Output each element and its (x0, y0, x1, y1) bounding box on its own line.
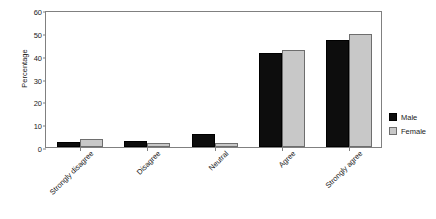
bar-male-0 (57, 142, 80, 147)
bar-group-2 (192, 12, 238, 147)
legend-item-male: Male (389, 110, 426, 124)
legend-swatch-male (389, 113, 397, 121)
legend-swatch-female (389, 127, 397, 135)
bar-male-3 (259, 53, 282, 147)
plot-area: Percentage 0102030405060 (45, 11, 382, 148)
legend-label-female: Female (401, 127, 426, 136)
bar-group-4 (326, 12, 372, 147)
bar-female-4 (349, 34, 372, 147)
bar-female-0 (80, 139, 103, 147)
bar-group-3 (259, 12, 305, 147)
bar-female-2 (215, 143, 238, 147)
bar-male-1 (124, 141, 147, 147)
bars-layer (46, 12, 381, 147)
bar-group-0 (57, 12, 103, 147)
clipped-caption-remnant (6, 0, 306, 5)
bar-chart-figure: Percentage 0102030405060 Strongly disagr… (0, 0, 436, 219)
x-axis-labels: Strongly disagreeDisagreeNeutralAgreeStr… (0, 149, 436, 219)
bar-group-1 (124, 12, 170, 147)
bar-male-2 (192, 134, 215, 147)
bar-female-3 (282, 50, 305, 147)
legend-item-female: Female (389, 124, 426, 138)
bar-male-4 (326, 40, 349, 147)
y-axis-title: Percentage (20, 29, 29, 109)
legend: MaleFemale (389, 110, 426, 138)
legend-label-male: Male (401, 113, 417, 122)
bar-female-1 (147, 143, 170, 147)
